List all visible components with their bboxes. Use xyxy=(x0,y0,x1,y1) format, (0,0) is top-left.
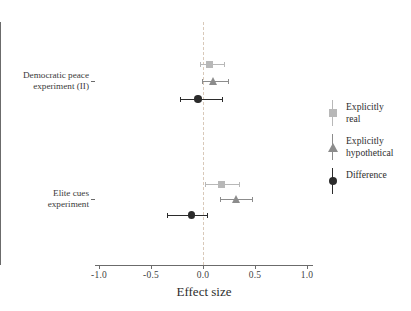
legend-label: Difference xyxy=(346,169,411,181)
forest-plot-figure: -1.0-0.50.00.51.0 Democratic peaceexperi… xyxy=(0,0,411,311)
square-marker-icon xyxy=(329,109,337,117)
ci-cap-high xyxy=(239,182,240,187)
y-category-label: Democratic peaceexperiment (II) xyxy=(0,70,89,92)
legend-item[interactable]: Explicitlyreal xyxy=(326,100,411,134)
zero-reference-line xyxy=(203,22,204,265)
circle-marker-icon xyxy=(329,177,337,185)
legend-item[interactable]: Difference xyxy=(326,168,411,202)
x-tick-mark xyxy=(99,265,100,269)
ci-cap-low xyxy=(202,79,203,84)
y-category-label-line2: experiment (II) xyxy=(0,81,89,92)
square-marker-icon xyxy=(206,61,213,68)
y-category-label: Elite cuesexperiment xyxy=(0,188,89,210)
x-tick-label: 1.0 xyxy=(287,270,327,280)
square-marker-icon xyxy=(218,181,225,188)
legend-label-line2: real xyxy=(346,113,411,125)
y-category-label-line1: Democratic peace xyxy=(0,70,89,81)
legend-glyph xyxy=(326,134,340,160)
legend-label-line1: Difference xyxy=(346,169,411,181)
y-category-label-line1: Elite cues xyxy=(0,188,89,199)
confidence-interval-bar xyxy=(167,215,208,216)
legend-glyph xyxy=(326,100,340,126)
x-tick-label: -1.0 xyxy=(79,270,119,280)
x-axis-line xyxy=(95,265,313,266)
ci-cap-high xyxy=(228,79,229,84)
ci-cap-low xyxy=(220,197,221,202)
legend-glyph xyxy=(326,168,340,194)
x-tick-label: -0.5 xyxy=(131,270,171,280)
legend-label-line1: Explicitly xyxy=(346,135,411,147)
x-tick-label: 0.0 xyxy=(183,270,223,280)
x-tick-mark xyxy=(255,265,256,269)
y-axis-line xyxy=(0,22,1,265)
x-tick-mark xyxy=(203,265,204,269)
ci-cap-low xyxy=(180,97,181,102)
ci-cap-low xyxy=(205,182,206,187)
triangle-marker-icon xyxy=(209,77,217,85)
x-axis-title: Effect size xyxy=(95,284,313,300)
triangle-marker-icon xyxy=(328,143,338,152)
x-tick-label: 0.5 xyxy=(235,270,275,280)
ci-cap-low xyxy=(200,62,201,67)
x-tick-mark xyxy=(151,265,152,269)
ci-cap-low xyxy=(167,213,168,218)
legend-label-line1: Explicitly xyxy=(346,101,411,113)
ci-cap-high xyxy=(222,97,223,102)
y-category-label-line2: experiment xyxy=(0,199,89,210)
y-tick-mark xyxy=(91,81,95,82)
chart-legend: ExplicitlyrealExplicitlyhypotheticalDiff… xyxy=(326,100,411,202)
x-tick-mark xyxy=(307,265,308,269)
legend-label-line2: hypothetical xyxy=(346,147,411,159)
ci-cap-high xyxy=(224,62,225,67)
legend-item[interactable]: Explicitlyhypothetical xyxy=(326,134,411,168)
y-tick-mark xyxy=(91,199,95,200)
circle-marker-icon xyxy=(188,211,196,219)
triangle-marker-icon xyxy=(232,195,240,203)
ci-cap-high xyxy=(252,197,253,202)
legend-label: Explicitlyreal xyxy=(346,101,411,124)
legend-label: Explicitlyhypothetical xyxy=(346,135,411,158)
ci-cap-high xyxy=(207,213,208,218)
circle-marker-icon xyxy=(194,95,202,103)
